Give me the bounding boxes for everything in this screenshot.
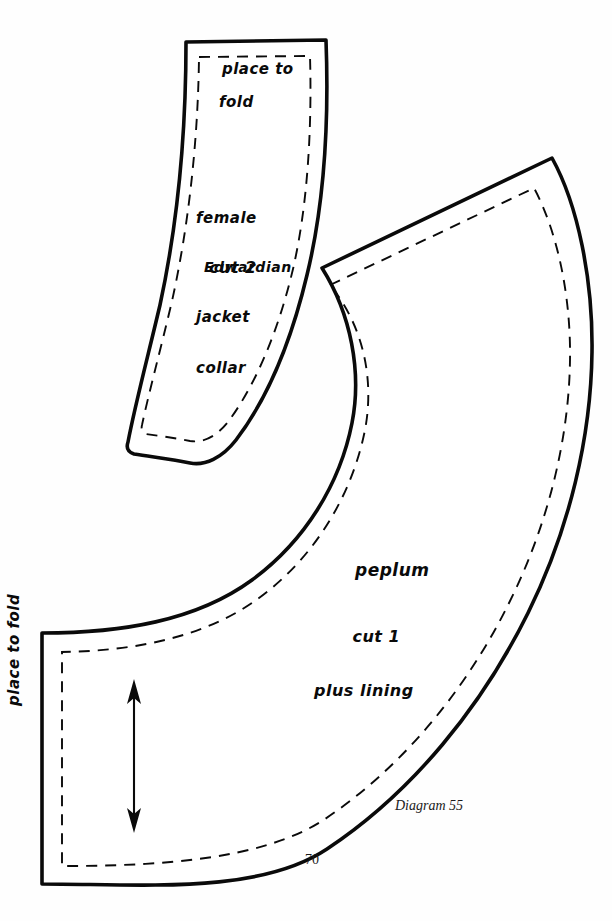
peplum-piece-group <box>42 158 592 885</box>
collar-name-line-3: jacket <box>196 309 292 326</box>
collar-fold-line-2: fold <box>219 94 294 111</box>
collar-name-label: female Edwardian jacket collar <box>196 176 292 410</box>
peplum-cut-line-1: cut 1 <box>339 628 414 646</box>
peplum-name-label: peplum <box>355 561 430 580</box>
peplum-outline <box>42 158 592 885</box>
collar-cut-label: cut 2 <box>209 259 257 277</box>
collar-fold-line-1: place to <box>222 60 294 78</box>
peplum-cut-label: cut 1 plus lining <box>339 592 414 735</box>
collar-name-line-4: collar <box>196 360 292 377</box>
collar-name-line-1: female <box>196 210 292 227</box>
page-number: 70 <box>305 852 319 868</box>
peplum-place-to-fold-label: place to fold <box>6 594 23 706</box>
diagram-caption: Diagram 55 <box>395 798 463 814</box>
pattern-page: place to fold female Edwardian jacket co… <box>0 0 612 921</box>
peplum-cut-line-2: plus lining <box>314 682 414 700</box>
collar-place-to-fold-label: place to fold <box>199 44 294 145</box>
pattern-drawing <box>0 0 612 921</box>
